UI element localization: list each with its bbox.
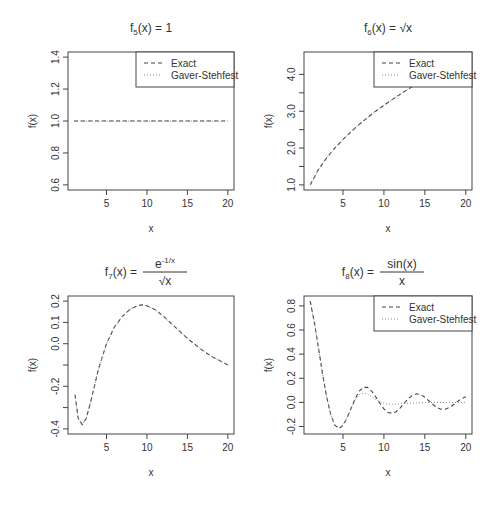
y-tick-label: -0.2 [50, 377, 61, 395]
x-tick-label: 15 [182, 442, 194, 453]
y-axis: -0.4-0.20.00.10.2f(x) [27, 294, 68, 438]
legend-label: Exact [171, 58, 196, 69]
x-tick-label: 20 [460, 198, 472, 209]
panel-f5: f5(x) = 15101520x0.60.81.01.21.4f(x)Exac… [27, 21, 238, 234]
legend-label: Gaver-Stehfest [409, 314, 476, 325]
y-axis: -0.20.00.20.40.60.8f(x) [263, 299, 304, 436]
panel-f8: f8(x) =sin(x)x5101520x-0.20.00.20.40.60.… [263, 257, 476, 478]
chart-title: f6(x) = √x [364, 21, 412, 37]
y-tick-label: 0.2 [50, 294, 61, 308]
x-tick-label: 5 [340, 198, 346, 209]
x-tick-label: 5 [340, 442, 346, 453]
svg-text:f5(x) = 1: f5(x) = 1 [130, 21, 172, 37]
chart-title: f8(x) =sin(x)x [342, 257, 424, 288]
panel-f7: f7(x) =e-1/x√x5101520x-0.4-0.20.00.10.2f… [27, 256, 234, 478]
svg-text:f6(x) = √x: f6(x) = √x [364, 21, 412, 37]
y-axis: 1.02.03.04.0f(x) [263, 67, 304, 192]
x-axis-label: x [386, 223, 391, 234]
y-axis-label: f(x) [263, 114, 274, 128]
x-tick-label: 15 [182, 198, 194, 209]
chart-title: f7(x) =e-1/x√x [105, 256, 187, 288]
title-numerator: e-1/x [155, 256, 175, 271]
y-axis-label: f(x) [27, 114, 38, 128]
y-tick-label: 0.4 [286, 347, 297, 361]
series-gaver-stehfest [75, 305, 228, 425]
legend-label: Gaver-Stehfest [409, 70, 476, 81]
panel-f6: f6(x) = √x5101520x1.02.03.04.0f(x)ExactG… [263, 21, 476, 234]
legend: ExactGaver-Stehfest [136, 52, 238, 87]
title-denominator: √x [159, 274, 172, 288]
y-axis-label: f(x) [263, 358, 274, 372]
x-tick-label: 10 [378, 442, 390, 453]
y-tick-label: 2.0 [286, 141, 297, 155]
svg-text:f7(x) =: f7(x) = [105, 265, 137, 281]
chart-title: f5(x) = 1 [130, 21, 172, 37]
y-tick-label: 0.6 [50, 178, 61, 192]
title-numerator: sin(x) [387, 257, 416, 271]
figure-canvas: f5(x) = 15101520x0.60.81.01.21.4f(x)Exac… [0, 0, 494, 505]
y-tick-label: 0.0 [286, 395, 297, 409]
x-tick-label: 20 [222, 198, 234, 209]
legend: ExactGaver-Stehfest [374, 52, 476, 87]
y-tick-label: 0.8 [286, 299, 297, 313]
x-tick-label: 15 [419, 198, 431, 209]
x-tick-label: 10 [141, 198, 153, 209]
y-tick-label: 0.8 [50, 146, 61, 160]
y-tick-label: 3.0 [286, 104, 297, 118]
y-tick-label: 0.1 [50, 315, 61, 329]
y-tick-label: 1.0 [50, 114, 61, 128]
y-tick-label: 1.4 [50, 50, 61, 64]
y-tick-label: 1.0 [286, 178, 297, 192]
x-tick-label: 10 [141, 442, 153, 453]
y-tick-label: 1.2 [50, 82, 61, 96]
x-axis-label: x [149, 467, 154, 478]
y-tick-label: 4.0 [286, 67, 297, 81]
legend-label: Exact [409, 302, 434, 313]
x-tick-label: 5 [104, 442, 110, 453]
legend-label: Gaver-Stehfest [171, 70, 238, 81]
x-axis: 5101520x [340, 434, 472, 478]
y-tick-label: 0.0 [50, 336, 61, 350]
title-denominator: x [399, 274, 405, 288]
plot-frame [68, 296, 234, 434]
x-axis: 5101520x [340, 190, 472, 234]
x-tick-label: 20 [222, 442, 234, 453]
x-tick-label: 5 [104, 198, 110, 209]
series-exact [75, 305, 228, 425]
x-axis: 5101520x [104, 190, 234, 234]
x-tick-label: 20 [460, 442, 472, 453]
legend: ExactGaver-Stehfest [374, 296, 476, 331]
x-axis: 5101520x [104, 434, 234, 478]
x-tick-label: 10 [378, 198, 390, 209]
y-axis: 0.60.81.01.21.4f(x) [27, 50, 68, 192]
y-axis-label: f(x) [27, 358, 38, 372]
y-tick-label: -0.4 [50, 420, 61, 438]
svg-text:f8(x) =: f8(x) = [342, 265, 374, 281]
x-tick-label: 15 [419, 442, 431, 453]
x-axis-label: x [149, 223, 154, 234]
legend-label: Exact [409, 58, 434, 69]
y-tick-label: 0.2 [286, 371, 297, 385]
y-tick-label: 0.6 [286, 323, 297, 337]
x-axis-label: x [386, 467, 391, 478]
y-tick-label: -0.2 [286, 417, 297, 435]
